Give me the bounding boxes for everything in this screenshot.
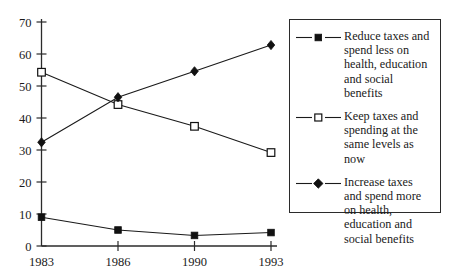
marker-filled-diamond-2-2 xyxy=(191,67,199,76)
x-tick-label-1983: 1983 xyxy=(29,255,54,269)
y-tick-label-10: 10 xyxy=(19,208,32,222)
y-tick-label-20: 20 xyxy=(19,176,32,190)
legend-label-reduce-taxes: Reduce taxes and spend less on health, e… xyxy=(341,29,434,100)
plot-area: 010203040506070 1983198619901993 xyxy=(0,0,290,273)
marker-open-square-1-3 xyxy=(267,149,275,157)
legend-entry-keep-taxes: Keep taxes and spending at the same leve… xyxy=(296,109,434,166)
filled-square-marker-icon xyxy=(296,30,341,45)
marker-filled-square-0-0 xyxy=(38,214,45,221)
marker-open-square-1-2 xyxy=(191,123,199,131)
x-tick-label-1993: 1993 xyxy=(259,255,284,269)
legend-entry-reduce-taxes: Reduce taxes and spend less on health, e… xyxy=(296,29,434,100)
filled-diamond-marker-icon xyxy=(296,176,341,191)
marker-filled-square-0-1 xyxy=(115,227,122,234)
legend-entry-increase-taxes: Increase taxes and spend more on health,… xyxy=(296,175,434,246)
legend: Reduce taxes and spend less on health, e… xyxy=(289,19,441,213)
open-square-marker-icon xyxy=(296,110,341,125)
marker-filled-square-0-2 xyxy=(191,232,198,239)
y-tick-label-0: 0 xyxy=(25,240,31,254)
marker-filled-diamond-2-3 xyxy=(267,40,275,49)
y-tick-label-60: 60 xyxy=(19,48,32,62)
legend-label-keep-taxes: Keep taxes and spending at the same leve… xyxy=(341,109,434,166)
y-tick-label-40: 40 xyxy=(19,112,32,126)
x-tick-label-1990: 1990 xyxy=(182,255,207,269)
x-axis-tick-labels: 1983198619901993 xyxy=(29,255,284,269)
axis-group xyxy=(37,19,278,251)
line-chart: 010203040506070 1983198619901993 Reduce … xyxy=(0,0,449,273)
y-tick-label-30: 30 xyxy=(19,144,32,158)
series-line-2 xyxy=(42,45,272,142)
plot-svg: 010203040506070 1983198619901993 xyxy=(0,0,290,273)
marker-filled-square-0-3 xyxy=(268,229,275,236)
y-tick-label-50: 50 xyxy=(19,80,32,94)
marker-filled-diamond-2-0 xyxy=(38,138,46,147)
series-line-0 xyxy=(42,217,272,235)
y-tick-label-70: 70 xyxy=(19,16,32,30)
legend-label-increase-taxes: Increase taxes and spend more on health,… xyxy=(341,175,434,246)
marker-open-square-1-0 xyxy=(38,68,46,76)
y-axis-tick-labels: 010203040506070 xyxy=(19,16,32,254)
series-group xyxy=(38,40,275,238)
x-tick-label-1986: 1986 xyxy=(106,255,131,269)
